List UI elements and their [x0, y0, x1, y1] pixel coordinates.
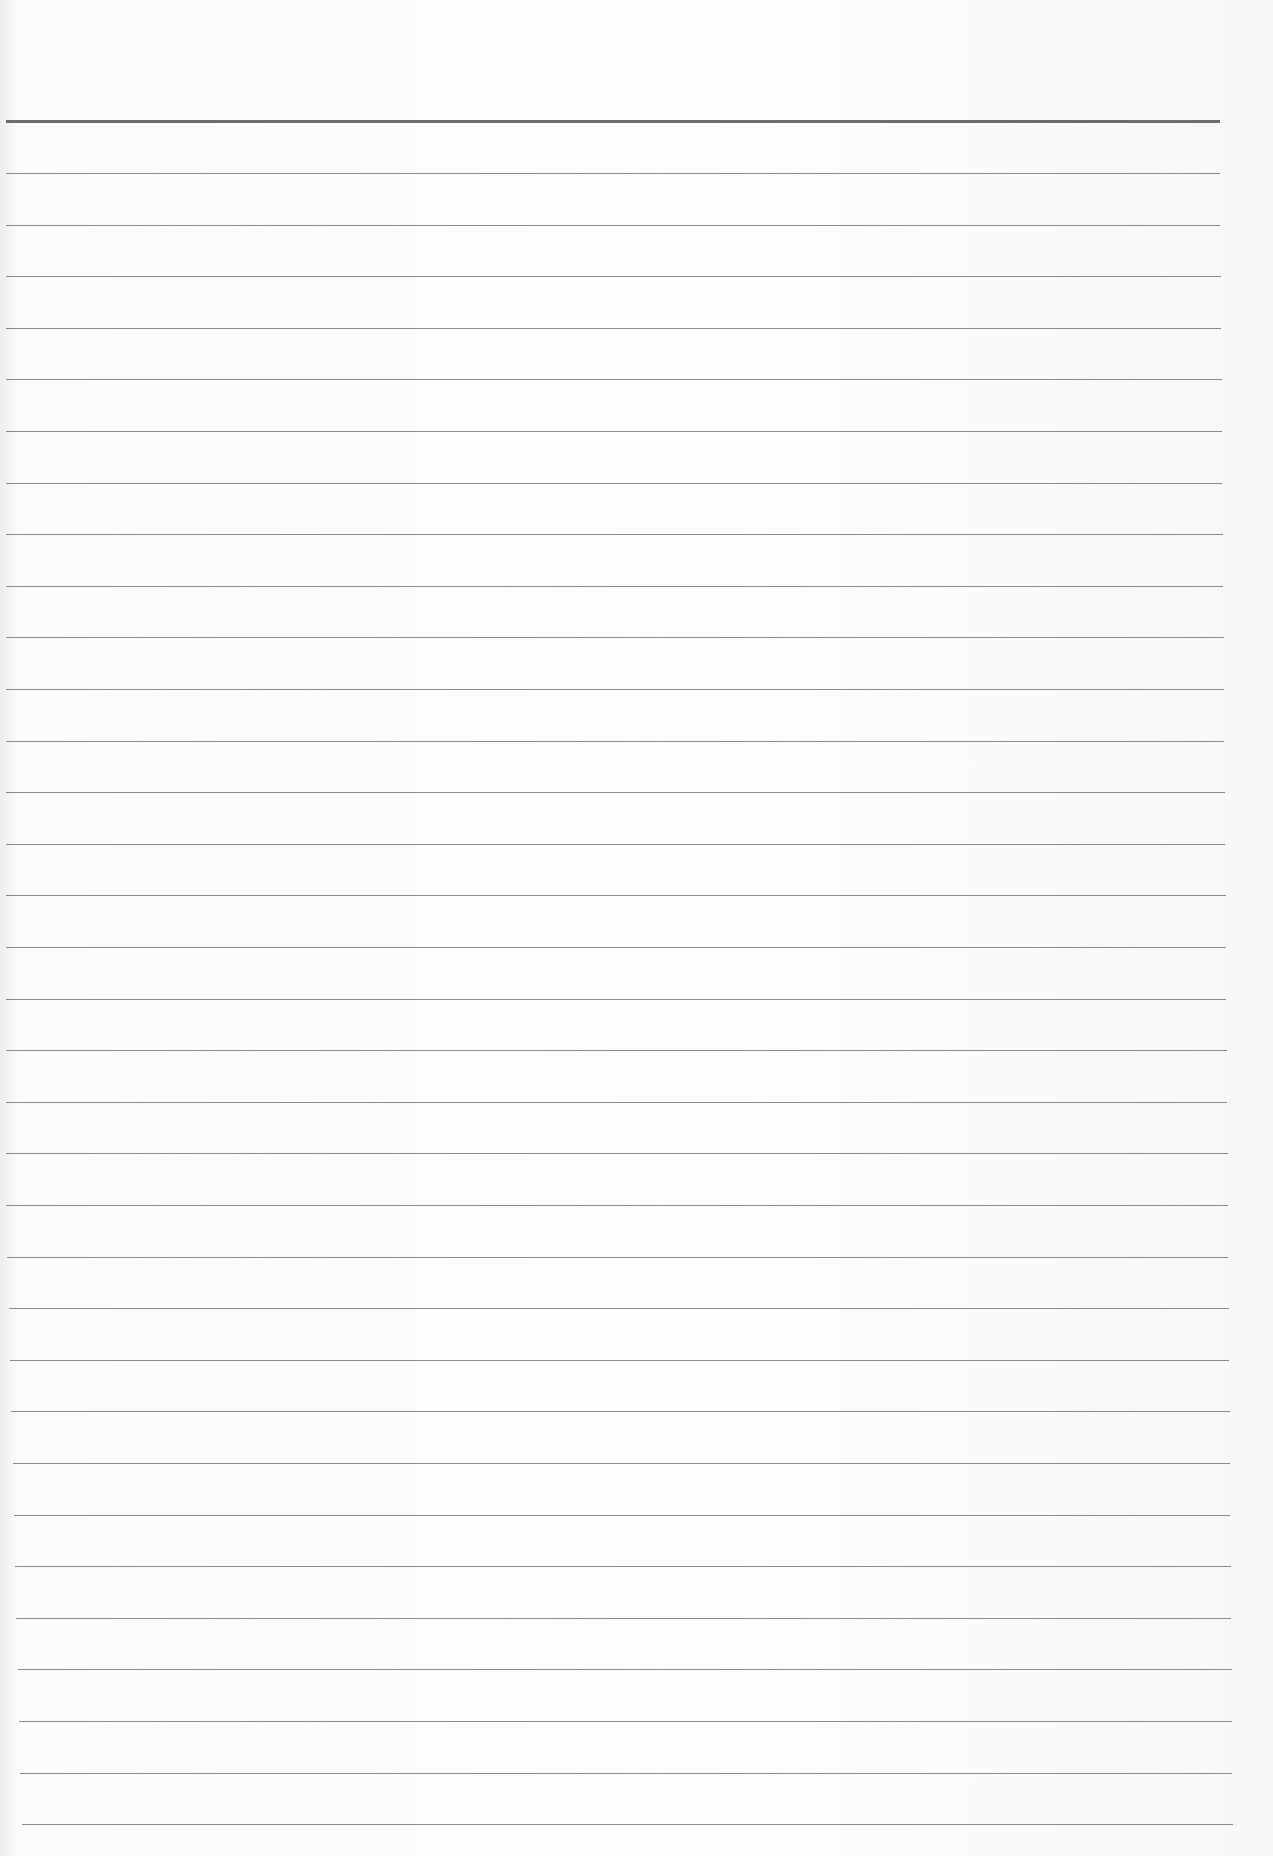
ruled-line	[6, 173, 1220, 174]
ruled-line	[6, 534, 1223, 535]
ruled-line	[20, 1773, 1232, 1774]
ruled-line	[18, 1669, 1232, 1670]
ruled-line	[6, 483, 1222, 484]
ruled-line	[6, 637, 1224, 638]
ruled-line	[6, 741, 1224, 742]
ruled-line	[6, 225, 1220, 226]
ruled-line	[6, 947, 1226, 948]
ruled-line	[16, 1618, 1231, 1619]
ruled-line	[6, 1205, 1228, 1206]
ruled-line	[6, 586, 1223, 587]
ruled-line	[6, 1102, 1227, 1103]
ruled-line	[6, 999, 1226, 1000]
ruled-line	[6, 792, 1225, 793]
ruled-line	[22, 1824, 1233, 1825]
ruled-line	[15, 1566, 1231, 1567]
ruled-line	[6, 689, 1224, 690]
ruled-line	[6, 1050, 1227, 1051]
header-rule	[6, 120, 1220, 123]
ruled-line	[6, 328, 1221, 329]
ruled-line	[6, 431, 1222, 432]
ruled-line	[6, 895, 1226, 896]
ruled-line	[7, 1257, 1228, 1258]
ruled-line	[13, 1463, 1230, 1464]
ruled-line	[6, 844, 1225, 845]
lined-paper-page	[0, 0, 1273, 1856]
ruled-line	[6, 379, 1222, 380]
ruled-line	[6, 276, 1221, 277]
ruled-line	[10, 1360, 1229, 1361]
ruled-line	[6, 1153, 1228, 1154]
ruled-line	[9, 1308, 1229, 1309]
ruled-line	[11, 1411, 1229, 1412]
ruled-line	[19, 1721, 1232, 1722]
ruled-line	[14, 1515, 1231, 1516]
